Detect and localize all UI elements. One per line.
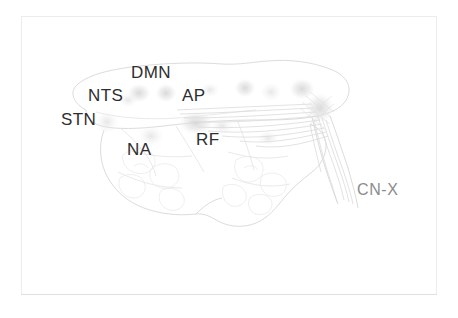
label-cn-x: CN-X (357, 182, 399, 198)
label-dmn: DMN (131, 64, 171, 81)
label-na: NA (127, 141, 151, 158)
label-ap: AP (182, 87, 205, 104)
figure-frame-border (21, 16, 437, 295)
label-stn: STN (61, 111, 96, 128)
label-rf: RF (196, 131, 219, 148)
figure-root: DMN NTS AP STN RF NA CN-X (0, 0, 458, 318)
label-nts: NTS (88, 87, 123, 104)
